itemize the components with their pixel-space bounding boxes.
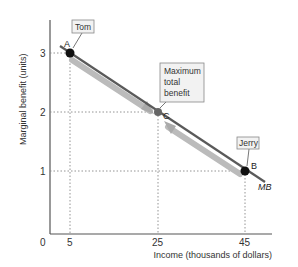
point-c-label: C: [163, 111, 170, 121]
y-axis-title: Marginal benefit (units): [18, 53, 28, 145]
point-c: [154, 108, 162, 116]
chart-canvas: A C B Tom Maximum total benefit Jerry MB…: [0, 0, 298, 267]
x-tick-45: 45: [239, 237, 251, 248]
x-tick-0: 0: [40, 237, 46, 248]
x-tick-5: 5: [67, 237, 73, 248]
tom-label: Tom: [75, 22, 91, 32]
point-a-label: A: [64, 39, 70, 49]
point-b-label: B: [251, 161, 257, 171]
max-label-line3: benefit: [164, 88, 190, 98]
tom-callout: Tom: [72, 20, 94, 48]
y-tick-1: 1: [40, 166, 46, 177]
mb-label: MB: [258, 182, 272, 192]
adjustment-band: [72, 60, 240, 174]
jerry-label: Jerry: [239, 138, 259, 148]
max-label-line1: Maximum: [164, 66, 201, 76]
point-b: [241, 167, 250, 176]
guide-lines: [50, 53, 245, 234]
max-benefit-callout: Maximum total benefit: [160, 63, 204, 108]
y-tick-2: 2: [40, 107, 46, 118]
y-tick-3: 3: [40, 48, 46, 59]
x-axis-title: Income (thousands of dollars): [153, 250, 272, 260]
max-label-line2: total: [164, 77, 180, 87]
point-a: [66, 49, 75, 58]
x-tick-25: 25: [152, 237, 164, 248]
